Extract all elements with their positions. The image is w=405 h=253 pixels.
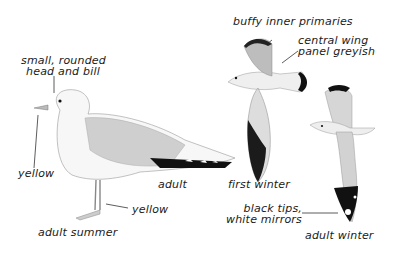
caption-first-winter: first winter bbox=[228, 179, 290, 190]
caption-adult-summer: adult summer bbox=[38, 227, 117, 238]
adult-summer-gull-figure bbox=[34, 90, 235, 220]
annotation-buffy-inner-primaries: buffy inner primaries bbox=[233, 16, 353, 27]
annotation-line: head and bill bbox=[21, 66, 106, 77]
annotation-legs-yellow: yellow bbox=[132, 204, 168, 215]
first-winter-gull-figure bbox=[228, 39, 307, 182]
adult-winter-gull-figure bbox=[310, 85, 375, 222]
annotation-adult: adult bbox=[158, 179, 187, 190]
annotation-line: white mirrors bbox=[226, 214, 302, 225]
caption-adult-winter: adult winter bbox=[305, 230, 374, 241]
annotation-bill-yellow: yellow bbox=[18, 168, 54, 179]
annotation-line: panel greyish bbox=[298, 46, 375, 57]
annotation-central-wing-panel: central wing panel greyish bbox=[298, 35, 375, 57]
annotation-small-rounded-head: small, rounded head and bill bbox=[21, 55, 106, 77]
annotation-black-tips-white-mirrors: black tips, white mirrors bbox=[226, 203, 302, 225]
